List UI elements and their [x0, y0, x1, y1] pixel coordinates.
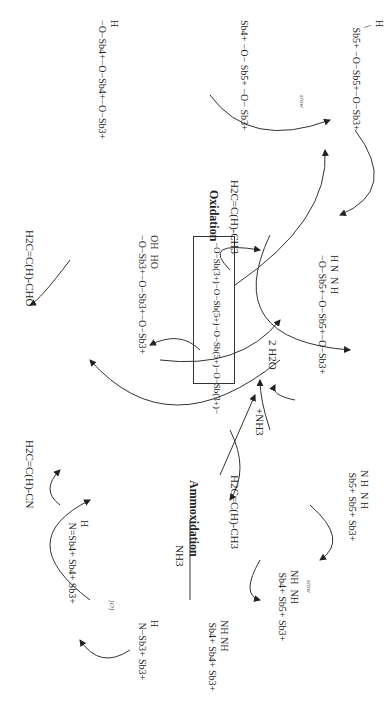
reaction-scheme: −O−Sb(3+)−O−Sb(5+)−O−Sb(5+)−O−Sb(3+)− Ox…: [0, 0, 390, 724]
ammonia-feed-label: NH3: [174, 545, 185, 566]
ammonia-add-label: +NH3: [254, 408, 265, 436]
intermediate-am-2: N H N H Sb5+ Sb5+ Sb3+: [347, 470, 370, 541]
ammoxidation-label: Ammoxidation: [188, 480, 200, 557]
intermediate-am-6: H N=Sb4+ Sb4+ Sb3+: [67, 520, 90, 604]
slow-step-ammoxidation: slow: [305, 580, 312, 593]
intermediate-am-3: NH NH Sb4+ Sb5+ Sb3+: [277, 570, 300, 641]
slow-step-oxidation: slow: [298, 95, 305, 108]
intermediate-ox-2: Sb4+ −O− Sb5+ −O− Sb3+: [239, 20, 251, 131]
intermediate-reduced: OH HO −O−Sb3+−O−Sb3+−O−Sb3+: [137, 235, 160, 354]
intermediate-am-4: NH NH Sb4+ Sb4+ Sb3+: [207, 620, 230, 691]
intermediate-am-5: H N−Sb3+ Sb3+: [137, 620, 160, 680]
water-product: 2 H2O: [267, 340, 278, 370]
propylene-ammoxidation-reactant: H2C=C(H)-CH3: [229, 475, 240, 549]
rotated-scheme-frame: −O−Sb(3+)−O−Sb(5+)−O−Sb(5+)−O−Sb(3+)− Ox…: [0, 0, 390, 724]
intermediate-ox-3: H −O−Sb4+−O−Sb4+−O−Sb3+: [97, 20, 120, 139]
acrylonitrile-product: H2C=C(H)-CN: [24, 440, 35, 509]
intermediate-ox-1: H \ Sb5+ −O−Sb5+−O−Sb3+: [351, 20, 386, 131]
intermediate-am-1: H N N H −O−Sb5+−O−Sb5+−O−Sb3+: [317, 255, 340, 374]
oxidation-label: Oxidation: [208, 190, 220, 241]
propylene-oxidation-reactant: H2C=C(H)-CH3: [229, 180, 240, 254]
oxidant-step: [O]: [108, 600, 115, 611]
acrolein-product: H2C=C(H)-CHO: [24, 230, 35, 306]
central-catalyst-structure: −O−Sb(3+)−O−Sb(5+)−O−Sb(5+)−O−Sb(3+)−: [212, 242, 222, 414]
